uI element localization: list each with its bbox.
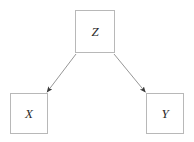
edge-z-to-x [47,54,76,92]
node-y-label: Y [161,107,168,120]
node-x-label: X [25,107,33,120]
causal-diagram: Z X Y [0,0,194,142]
node-y: Y [146,93,184,134]
node-z: Z [75,10,115,53]
node-x: X [10,93,48,134]
node-z-label: Z [91,25,98,38]
edge-z-to-y [114,54,145,92]
